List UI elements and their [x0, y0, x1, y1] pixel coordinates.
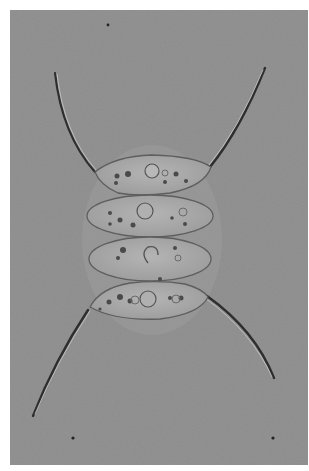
- micrograph: [10, 10, 308, 465]
- cell-3: [89, 237, 211, 281]
- algae-colony-image: [10, 10, 308, 465]
